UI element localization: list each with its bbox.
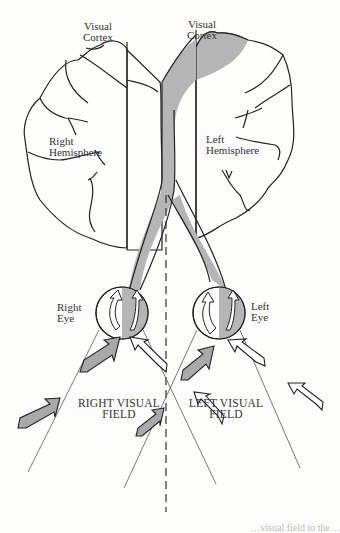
label-line: FIELD [76, 409, 162, 420]
label-visual-cortex-right: Visual Cortex [76, 21, 120, 43]
label-line: Hemisphere [49, 147, 102, 158]
label-line: Eye [57, 313, 81, 324]
label-left-visual-field: LEFT VISUAL FIELD [183, 398, 269, 420]
label-right-eye: Right Eye [57, 302, 81, 324]
right-eye [96, 287, 148, 339]
label-right-visual-field: RIGHT VISUAL FIELD [76, 398, 162, 420]
label-left-hemisphere: Left Hemisphere [206, 134, 259, 156]
visual-pathway-diagram [0, 0, 340, 533]
label-right-hemisphere: Right Hemisphere [49, 136, 102, 158]
label-line: Hemisphere [206, 145, 259, 156]
left-eye [193, 287, 245, 339]
label-line: Cortex [180, 30, 224, 41]
label-line: FIELD [183, 409, 269, 420]
label-line: Eye [251, 312, 269, 323]
label-visual-cortex-left: Visual Cortex [180, 19, 224, 41]
label-left-eye: Left Eye [251, 301, 269, 323]
right-field-arrows [18, 337, 214, 436]
figure-caption-cutoff: …visual field to the… [0, 522, 340, 533]
label-line: Cortex [76, 32, 120, 43]
